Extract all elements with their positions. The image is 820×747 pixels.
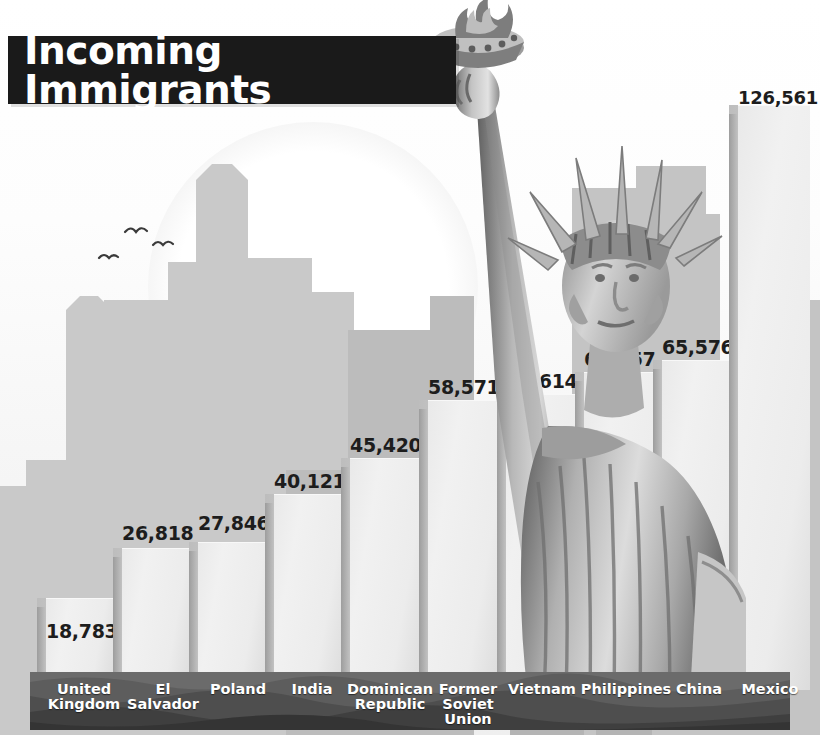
label-line: Vietnam <box>500 682 584 697</box>
bar-front-face <box>198 542 266 690</box>
category-label-el-salvador: El Salvador <box>120 682 206 712</box>
immigration-infographic: 18,783 26,818 27,846 40,121 45,420 <box>0 0 820 747</box>
category-label-india: India <box>272 682 352 697</box>
category-label-poland: Poland <box>196 682 280 697</box>
bar-front-face <box>122 548 190 690</box>
bar-el-salvador: 26,818 <box>122 548 190 690</box>
category-label-philippines: Philippines <box>578 682 674 697</box>
bar-side-face <box>419 409 428 699</box>
bar-side-face <box>341 467 350 699</box>
label-line: Former <box>432 682 504 697</box>
label-line: Mexico <box>730 682 810 697</box>
label-line: China <box>664 682 734 697</box>
page-title: Incoming Immigrants <box>24 31 456 109</box>
bar-front-face <box>274 494 342 690</box>
label-line: El <box>120 682 206 697</box>
category-label-mexico: Mexico <box>730 682 810 697</box>
bar-front-face <box>350 458 420 690</box>
category-label-china: China <box>664 682 734 697</box>
label-line: Philippines <box>578 682 674 697</box>
bar-value-label: 40,121 <box>274 470 342 492</box>
category-label-vietnam: Vietnam <box>500 682 584 697</box>
title-banner: Incoming Immigrants <box>8 36 456 104</box>
bar-value-label: 18,783 <box>46 620 114 642</box>
label-line: Salvador <box>120 697 206 712</box>
bar-value-label: 45,420 <box>350 434 420 456</box>
label-line: India <box>272 682 352 697</box>
category-label-united-kingdom: United Kingdom <box>40 682 128 712</box>
label-line: Kingdom <box>40 697 128 712</box>
label-line: Poland <box>196 682 280 697</box>
bar-side-face <box>265 503 274 699</box>
statue-of-liberty-photo <box>430 0 760 696</box>
bar-value-label: 26,818 <box>122 522 190 544</box>
category-label-former-soviet-union: Former Soviet Union <box>432 682 504 727</box>
category-label-dominican-republic: Dominican Republic <box>342 682 438 712</box>
bar-poland: 27,846 <box>198 542 266 690</box>
bar-india: 40,121 <box>274 494 342 690</box>
label-line: Republic <box>342 697 438 712</box>
bar-dominican-republic: 45,420 <box>350 458 420 690</box>
bar-value-label: 27,846 <box>198 512 266 534</box>
label-line: Soviet <box>432 697 504 712</box>
label-line: Union <box>432 712 504 727</box>
category-labels: United Kingdom El Salvador Poland India … <box>0 678 820 738</box>
label-line: Dominican <box>342 682 438 697</box>
label-line: United <box>40 682 128 697</box>
